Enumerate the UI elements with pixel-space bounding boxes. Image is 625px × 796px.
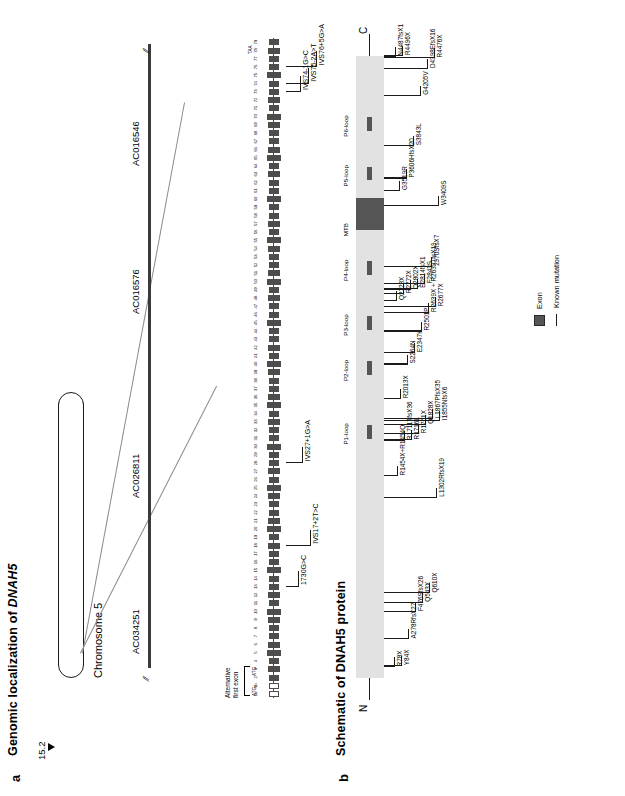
protein-mutation-leader [401, 656, 402, 666]
protein-mutation-leader [424, 274, 425, 284]
legend-exon-label: Exon [535, 292, 544, 309]
exon-box [268, 493, 280, 499]
protein-mutation-tick [384, 497, 436, 498]
protein-mutation-tick [384, 145, 413, 146]
protein-mutation-label: G4205V [422, 71, 429, 94]
protein-mutation-leader [406, 169, 407, 179]
panel-a-title-plain: Genomic localization of [6, 607, 20, 756]
legend-row-exon: Exon [534, 255, 545, 326]
protein-mutation-leader [411, 430, 412, 440]
protein-mutation-leader [429, 583, 430, 593]
protein-mutation-tick [384, 666, 394, 667]
protein-mutation-tick [384, 57, 434, 58]
chromosome-label: Chromosome 5 [92, 603, 104, 678]
exon-box [268, 270, 280, 276]
exon-box [268, 617, 280, 623]
genomic-mutation-leader [302, 447, 303, 463]
exon-box [269, 510, 279, 516]
exon-box [269, 633, 279, 639]
protein-mutation-tick [384, 190, 399, 191]
protein-mutation-tick [384, 424, 425, 425]
exon-box [269, 287, 279, 293]
exon-box [269, 477, 279, 483]
genomic-mutation-tick [286, 586, 298, 587]
exon-box [267, 155, 281, 161]
legend-mutation-label: Known mutation [552, 255, 561, 308]
exon-box [269, 105, 279, 111]
protein-mutation-tick [384, 205, 438, 206]
exon-box [269, 353, 279, 359]
exon-box [267, 237, 281, 243]
exon-box [269, 64, 279, 70]
exon-box [269, 229, 279, 235]
exon-box [269, 328, 279, 334]
contig-label-ac034251: AC034251 [130, 609, 141, 654]
contig-bar-ac034251 [148, 494, 151, 668]
protein-mutation-markers: R78XY84XA278RfsX27F476SfsX26Q543XQ610XL1… [384, 18, 584, 678]
exon-box [267, 196, 281, 202]
chromosome-ideogram [58, 392, 84, 678]
exon-box [267, 609, 281, 615]
exon-box [269, 551, 279, 557]
exon-box [268, 419, 280, 425]
gene-backbone-line [273, 38, 274, 698]
domain-label-p4-loop: P4-loop [342, 260, 349, 281]
protein-mutation-leader [421, 322, 422, 332]
exon-box [269, 163, 279, 169]
domain-label-p3-loop: P3-loop [342, 314, 349, 335]
protein-domain-mtb [356, 198, 384, 230]
gene-exon-track: 1a1b234567891011121314151617181920212223… [262, 38, 286, 698]
exon-box [268, 592, 280, 598]
protein-mutation-leader [420, 86, 421, 96]
protein-mutation-tick [384, 293, 403, 294]
contig-label-ac016576: AC016576 [130, 269, 141, 314]
exon-box [269, 584, 279, 590]
protein-mutation-tick [384, 330, 421, 331]
protein-domain-p6-loop [367, 117, 372, 131]
genomic-mutation-leader [310, 530, 311, 546]
genomic-mutation-leader [298, 571, 299, 587]
exon-box [269, 312, 279, 318]
exon-box [269, 559, 279, 565]
protein-mutation-leader [439, 411, 440, 421]
protein-mutation-tick [384, 363, 407, 364]
protein-body [356, 56, 384, 678]
protein-mutation-tick [384, 352, 414, 353]
exon-box [267, 279, 281, 285]
figure-legend: Exon Known mutation [534, 255, 568, 326]
exon-box [269, 460, 279, 466]
legend-row-mutation: Known mutation [552, 255, 561, 326]
exon-box [268, 369, 280, 375]
exon-box [267, 114, 281, 120]
protein-mutation-leader [400, 389, 401, 399]
exon-box [269, 336, 279, 342]
exon-box [269, 452, 279, 458]
protein-mutation-leader [399, 181, 400, 191]
protein-mutation-label: E2347K [416, 330, 423, 353]
contig-bar-ac016576 [148, 162, 151, 326]
figure-root: a Genomic localization of DNAH5 [0, 0, 625, 796]
protein-mutation-tick [384, 439, 411, 440]
exon-box [269, 81, 279, 87]
contig-arrow-left-icon: ⁄⁄ [141, 677, 151, 680]
protein-mutation-leader [415, 602, 416, 612]
exon-box [269, 56, 279, 62]
c-terminus-label: C [358, 27, 369, 34]
protein-mutation-tick [384, 288, 417, 289]
protein-mutation-leader [427, 59, 428, 69]
exon-number: 79 [253, 35, 258, 49]
genomic-mutation-tick [286, 91, 300, 92]
exon-box [268, 642, 280, 648]
panel-b-protein-schematic: b Schematic of DNAH5 protein N C P1-loop… [334, 0, 625, 796]
panel-a-genomic-localization: a Genomic localization of DNAH5 [0, 0, 330, 796]
contig-label-ac016546: AC016546 [130, 121, 141, 166]
panel-a-letter: a [8, 775, 23, 782]
protein-mutation-tick [384, 398, 400, 399]
protein-mutation-label: R4476X [436, 34, 443, 57]
alt-exon-bracket-top [244, 666, 245, 696]
protein-domain-p1-loop [367, 425, 372, 439]
protein-mutation-label: Y84X [403, 650, 410, 666]
protein-mutation-leader [413, 136, 414, 146]
protein-mutation-tick [384, 300, 396, 301]
exon-box [268, 97, 280, 103]
